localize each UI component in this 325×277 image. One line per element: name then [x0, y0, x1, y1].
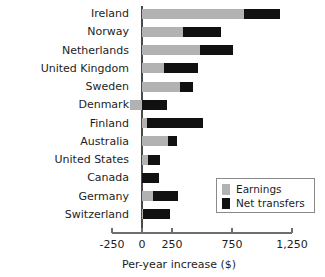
chart-container: IrelandNorwayNetherlandsUnited KingdomSw… [0, 0, 325, 277]
bar-segment-net-transfers [200, 45, 233, 55]
bar-segment-net-transfers [183, 27, 221, 37]
x-axis-tick [111, 228, 112, 233]
legend-label-net-transfers: Net transfers [236, 198, 305, 209]
bar-segment-earnings [142, 27, 183, 37]
bar-segment-net-transfers [164, 63, 198, 73]
x-axis-tick [231, 228, 232, 233]
bar-segment-net-transfers [244, 9, 280, 19]
x-axis-line [112, 232, 292, 234]
bar-segment-earnings [142, 82, 180, 92]
legend-label-earnings: Earnings [236, 184, 282, 195]
bar-segment-earnings [142, 136, 168, 146]
legend-swatch-earnings-icon [222, 184, 230, 195]
x-axis-tick-label: -250 [100, 239, 125, 250]
bar-segment-net-transfers [180, 82, 193, 92]
bar-segment-earnings [130, 100, 142, 110]
chart-legend: Earnings Net transfers [216, 178, 315, 213]
x-axis-tick [141, 228, 142, 233]
x-axis-tick-label: 1,250 [276, 239, 308, 250]
bar-segment-net-transfers [153, 191, 178, 201]
plot-area [0, 0, 325, 277]
bar-segment-earnings [142, 9, 244, 19]
bar-segment-net-transfers [148, 155, 160, 165]
bar-segment-earnings [142, 191, 153, 201]
bar-segment-net-transfers [142, 173, 159, 183]
legend-item-net-transfers: Net transfers [222, 196, 310, 210]
x-axis-tick-label: 0 [139, 239, 146, 250]
bar-segment-net-transfers [143, 209, 169, 219]
bar-segment-net-transfers [168, 136, 177, 146]
x-axis-tick-label: 750 [222, 239, 243, 250]
legend-item-earnings: Earnings [222, 182, 310, 196]
x-axis-tick [171, 228, 172, 233]
bar-segment-net-transfers [142, 100, 167, 110]
x-axis-tick-label: 250 [162, 239, 183, 250]
x-axis-title: Per-year increase ($) [0, 259, 236, 271]
bar-segment-net-transfers [147, 118, 203, 128]
x-axis-tick [291, 228, 292, 233]
bar-segment-earnings [142, 45, 200, 55]
legend-swatch-net-transfers-icon [222, 198, 230, 209]
bar-segment-earnings [142, 63, 164, 73]
